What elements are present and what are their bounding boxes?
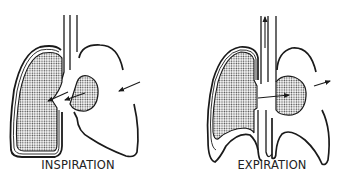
expiration-label: EXPIRATION	[222, 158, 322, 172]
trachea-tube-icon	[261, 16, 276, 84]
inspiration-panel	[10, 15, 140, 157]
lung-diagram-svg	[0, 0, 337, 184]
left-lung-shaded-icon	[16, 52, 62, 151]
right-lung-outline-icon	[79, 45, 123, 70]
right-lung-outline-icon	[277, 48, 316, 72]
inspiration-label: INSPIRATION	[28, 158, 128, 172]
lung-diagram: INSPIRATION EXPIRATION	[0, 0, 337, 184]
trachea-lower-icon	[258, 110, 272, 157]
right-lung-lower-outline-icon	[74, 104, 138, 157]
expiration-panel	[208, 16, 330, 165]
arrow-outward-icon	[314, 81, 330, 86]
arrow-inward-icon	[119, 82, 140, 91]
right-lung-lower-outline-icon	[272, 110, 329, 165]
